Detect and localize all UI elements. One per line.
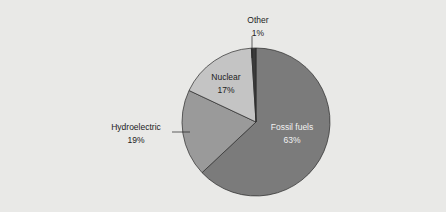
label-nuclear: Nuclear [211, 72, 240, 82]
label-hydroelectric: Hydroelectric [111, 122, 161, 132]
pie-chart: Other 1% Nuclear 17% Hydroelectric 19% F… [0, 0, 446, 212]
value-hydroelectric: 19% [127, 135, 144, 145]
label-other: Other [247, 15, 268, 25]
value-nuclear: 17% [217, 85, 234, 95]
value-fossil-fuels: 63% [283, 135, 300, 145]
value-other: 1% [252, 28, 265, 38]
label-fossil-fuels: Fossil fuels [271, 122, 314, 132]
